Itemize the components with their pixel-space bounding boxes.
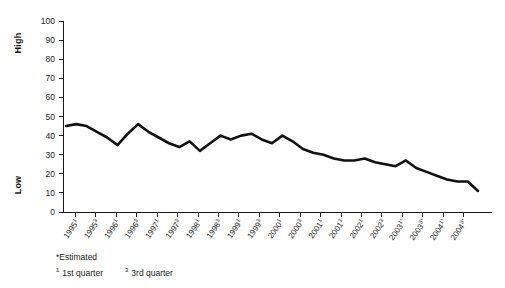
x-tick-label: 20043* [448, 217, 470, 242]
svg-text:20013: 20013 [326, 217, 346, 240]
y-tick-label: 0 [50, 207, 55, 217]
footnote-q3-text: 3rd quarter [131, 268, 173, 278]
svg-text:19953: 19953 [81, 217, 101, 240]
y-tick-label: 50 [46, 112, 56, 122]
x-tick-label: 20001 [265, 217, 285, 240]
svg-text:20023: 20023 [367, 217, 387, 240]
footnote-q1-marker: 1 [56, 267, 59, 273]
y-tick-label: 70 [46, 73, 56, 83]
x-tick-label: 19963 [122, 217, 142, 240]
y-tick-label: 20 [46, 169, 56, 179]
x-tick-label: 19993 [245, 217, 265, 240]
y-tick-label: 30 [46, 150, 56, 160]
footnote-third-quarter: 33rd quarter [125, 264, 173, 279]
x-tick-label: 19951 [61, 217, 81, 240]
x-tick-label: 20021 [347, 217, 367, 240]
data-series-line [66, 124, 478, 191]
x-tick-label: 19953 [81, 217, 101, 240]
chart-plot-area: 0102030405060708090100199511995319961199… [0, 0, 505, 288]
footnote-q1-text: 1st quarter [62, 268, 103, 278]
svg-text:19983: 19983 [204, 217, 224, 240]
svg-text:19981: 19981 [183, 217, 203, 240]
chart-footnotes: *Estimated 11st quarter 33rd quarter [56, 251, 173, 279]
y-tick-label: 10 [46, 188, 56, 198]
svg-text:20041*: 20041* [427, 217, 449, 242]
svg-text:19993: 19993 [245, 217, 265, 240]
x-tick-label: 20011 [306, 217, 326, 240]
x-tick-label: 19973 [163, 217, 183, 240]
svg-text:20043*: 20043* [448, 217, 470, 242]
x-tick-label: 19983 [204, 217, 224, 240]
svg-text:19963: 19963 [122, 217, 142, 240]
y-tick-label: 40 [46, 131, 56, 141]
x-tick-label: 20023 [367, 217, 387, 240]
x-tick-label: 20031* [387, 217, 409, 242]
x-tick-label: 19991 [224, 217, 244, 240]
svg-text:19971: 19971 [143, 217, 163, 240]
x-tick-label: 19981 [183, 217, 203, 240]
x-tick-label: 20003 [286, 217, 306, 240]
y-tick-label: 60 [46, 92, 56, 102]
x-tick-label: 20013 [326, 217, 346, 240]
svg-text:20031*: 20031* [387, 217, 409, 242]
x-tick-label: 19971 [143, 217, 163, 240]
y-tick-label: 80 [46, 54, 56, 64]
svg-text:19961: 19961 [102, 217, 122, 240]
x-tick-label: 20041* [427, 217, 449, 242]
svg-text:20003: 20003 [286, 217, 306, 240]
svg-text:20021: 20021 [347, 217, 367, 240]
svg-text:20001: 20001 [265, 217, 285, 240]
svg-text:19951: 19951 [61, 217, 81, 240]
line-chart-figure: High Low 0102030405060708090100199511995… [0, 0, 505, 288]
x-tick-label: 20033* [407, 217, 429, 242]
x-tick-label: 19961 [102, 217, 122, 240]
y-tick-label: 100 [41, 16, 55, 26]
svg-text:19973: 19973 [163, 217, 183, 240]
footnote-q3-marker: 3 [125, 267, 128, 273]
svg-text:19991: 19991 [224, 217, 244, 240]
footnote-estimated: *Estimated [56, 251, 173, 263]
svg-text:20011: 20011 [306, 217, 326, 240]
svg-text:20033*: 20033* [407, 217, 429, 242]
y-tick-label: 90 [46, 35, 56, 45]
footnote-first-quarter: 11st quarter [56, 264, 103, 279]
